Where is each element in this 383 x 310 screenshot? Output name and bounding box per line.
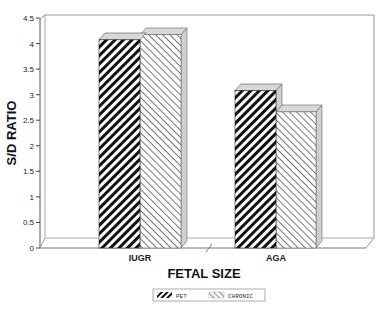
- y-tick: 0.5: [23, 218, 35, 227]
- y-tick: 4.5: [23, 14, 35, 23]
- y-tick: 3: [30, 91, 35, 100]
- legend-label-pet: PET: [176, 293, 187, 300]
- bar-iugr-pet: [99, 40, 140, 248]
- bar-group-aga: [235, 84, 322, 248]
- y-tick: 2.5: [23, 116, 35, 125]
- bar-iugr-chronic: [140, 35, 181, 248]
- legend: PET CHRONIC: [153, 289, 265, 301]
- x-category-label: AGA: [266, 253, 287, 263]
- x-axis-title: FETAL SIZE: [167, 266, 241, 281]
- y-tick: 0: [30, 244, 35, 253]
- legend-label-chronic: CHRONIC: [228, 293, 254, 300]
- bar-aga-pet: [235, 91, 276, 248]
- legend-swatch-chronic: [209, 292, 224, 298]
- y-tick: 2: [30, 142, 35, 151]
- bar-group-iugr: [99, 28, 187, 248]
- y-axis-title: S/D RATIO: [4, 101, 19, 166]
- x-category-label: IUGR: [129, 253, 152, 263]
- legend-swatch-pet: [157, 292, 172, 298]
- plot-frame: [40, 15, 374, 252]
- y-tick: 1: [30, 193, 35, 202]
- y-tick: 4: [30, 40, 35, 49]
- y-tick: 1.5: [23, 167, 35, 176]
- bar-aga-chronic: [276, 112, 316, 248]
- chart: 0 0.5 1 1.5 2 2.5 3 3.5 4 4.5 IUGR AGA F…: [0, 0, 383, 310]
- y-axis: 0 0.5 1 1.5 2 2.5 3 3.5 4 4.5: [23, 14, 40, 253]
- y-tick: 3.5: [23, 65, 35, 74]
